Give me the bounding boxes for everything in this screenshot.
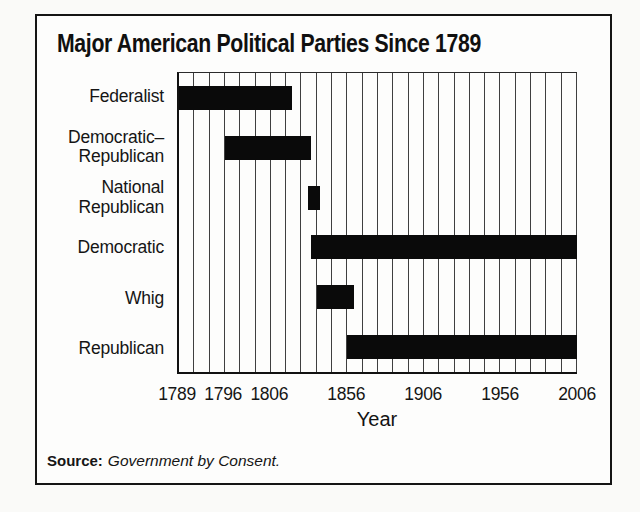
vertical-gridline [469,73,470,372]
vertical-gridline [561,73,562,372]
x-tick-label-2006: 2006 [558,384,596,405]
vertical-gridline [454,73,455,372]
party-labels-column: FederalistDemocratic–RepublicanNationalR… [42,72,164,374]
party-label-text: Federalist [89,87,164,107]
x-axis-ticks: 1789179618061856190619562006 [177,384,577,406]
party-label-national-republican: NationalRepublican [42,173,164,223]
source-text: Government by Consent. [108,452,280,469]
vertical-gridline [545,73,546,372]
party-bar-whig [317,285,354,309]
vertical-gridline [423,73,424,372]
party-bar-national-republican [308,186,320,210]
vertical-gridline [515,73,516,372]
party-label-text: Democratic [78,238,165,258]
scanned-figure-page: Major American Political Parties Since 1… [0,0,640,512]
vertical-gridline [392,73,393,372]
vertical-gridline [499,73,500,372]
party-label-line: Republican [68,147,164,167]
vertical-gridline [530,73,531,372]
party-label-line: National [78,178,164,198]
x-tick-label-1906: 1906 [404,384,442,405]
vertical-gridline [316,73,317,372]
x-tick-label-1796: 1796 [204,384,242,405]
vertical-gridline [484,73,485,372]
party-label-line: Democratic [78,238,165,258]
party-bar-democratic [311,235,577,259]
vertical-gridline [346,73,347,372]
x-tick-label-1806: 1806 [250,384,288,405]
vertical-gridline [362,73,363,372]
party-label-democratic: Democratic [42,223,164,273]
vertical-gridline [209,73,210,372]
vertical-gridline [377,73,378,372]
plot-area [177,72,577,374]
party-bar-democratic-republican [225,136,311,160]
party-label-democratic-republican: Democratic–Republican [42,122,164,172]
x-tick-label-1789: 1789 [158,384,196,405]
party-label-text: NationalRepublican [78,178,164,217]
x-axis-title: Year [177,408,577,431]
x-tick-label-1956: 1956 [481,384,519,405]
party-label-line: Republican [78,339,164,359]
vertical-gridline [239,73,240,372]
chart-title: Major American Political Parties Since 1… [57,29,481,58]
party-label-federalist: Federalist [42,72,164,122]
vertical-gridline [408,73,409,372]
party-label-line: Republican [78,198,164,218]
vertical-gridline [285,73,286,372]
party-bar-federalist [179,86,292,110]
party-label-text: Whig [125,289,164,309]
party-label-line: Democratic– [68,128,164,148]
vertical-gridline [255,73,256,372]
vertical-gridline [576,73,577,372]
party-label-line: Federalist [89,87,164,107]
source-label: Source: [47,452,103,469]
vertical-gridline [270,73,271,372]
x-tick-label-1856: 1856 [327,384,365,405]
vertical-gridline [438,73,439,372]
party-label-text: Democratic–Republican [68,128,164,167]
vertical-gridline [300,73,301,372]
vertical-gridline [224,73,225,372]
party-bar-republican [347,335,577,359]
vertical-gridline [331,73,332,372]
party-label-republican: Republican [42,324,164,374]
party-label-text: Republican [78,339,164,359]
party-label-whig: Whig [42,273,164,323]
source-note: Source:Government by Consent. [47,452,280,470]
party-label-line: Whig [125,289,164,309]
vertical-gridline [193,73,194,372]
